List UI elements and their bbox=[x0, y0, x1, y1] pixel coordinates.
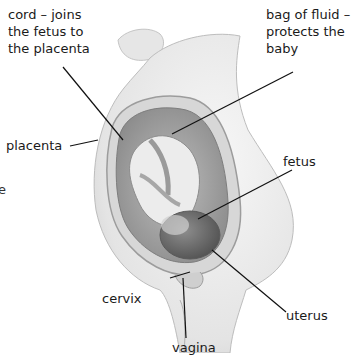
edge-text-fragment: e bbox=[0, 182, 6, 197]
leader-placenta bbox=[70, 140, 98, 146]
cord-label-line-1: cord – joins bbox=[8, 6, 90, 23]
bag-label-line-3: baby bbox=[266, 40, 350, 57]
cord-label: cord – joins the fetus to the placenta bbox=[8, 6, 90, 57]
cord-label-line-3: the placenta bbox=[8, 40, 90, 57]
bag-of-fluid-label: bag of fluid – protects the baby bbox=[266, 6, 350, 57]
bag-label-line-2: protects the bbox=[266, 23, 350, 40]
vagina-label: vagina bbox=[172, 339, 216, 356]
placenta-label: placenta bbox=[6, 137, 62, 154]
fetus-label: fetus bbox=[283, 153, 316, 170]
uterus-label: uterus bbox=[286, 307, 328, 324]
cord-label-line-2: the fetus to bbox=[8, 23, 90, 40]
bag-label-line-1: bag of fluid – bbox=[266, 6, 350, 23]
cervix-label: cervix bbox=[102, 290, 142, 307]
